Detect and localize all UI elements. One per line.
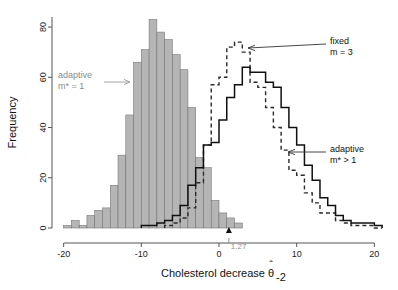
y-axis-tick-label: 60 xyxy=(38,72,48,82)
histogram-bar xyxy=(87,215,95,228)
annotation-label-line1: fixed xyxy=(330,36,349,46)
y-axis-tick-label: 40 xyxy=(38,123,48,133)
histogram-bar xyxy=(95,210,103,228)
histogram-bar xyxy=(180,70,188,228)
histogram-bar xyxy=(110,185,118,228)
histogram-bar xyxy=(71,220,79,228)
histogram-bar xyxy=(157,32,165,228)
annotation-label-line2: m* > 1 xyxy=(330,155,356,165)
y-axis-tick-label: 20 xyxy=(38,173,48,183)
x-axis-tick-label: 0 xyxy=(216,249,221,259)
histogram-bar xyxy=(172,55,180,228)
y-axis-tick-label: 80 xyxy=(38,22,48,32)
svg-text:θ: θ xyxy=(268,267,274,279)
histogram-bar xyxy=(219,213,227,228)
annotation-leader-line xyxy=(248,44,326,48)
histogram-bar xyxy=(149,20,157,228)
histogram-plot: 020406080Frequency-20-10010201.27Cholest… xyxy=(0,0,398,290)
histogram-bar xyxy=(64,225,72,228)
y-axis-title: Frequency xyxy=(6,96,18,148)
annotation-fixed-m-eq-3: fixedm = 3 xyxy=(248,36,353,57)
annotation-label-line1: adaptive xyxy=(330,144,364,154)
histogram-bar xyxy=(126,115,134,228)
x-axis-tick-label: -20 xyxy=(57,249,70,259)
histogram-bar xyxy=(141,50,149,228)
x-axis-tick-label: 10 xyxy=(292,249,302,259)
x-axis-tick-label: 20 xyxy=(369,249,379,259)
svg-text:-2: -2 xyxy=(276,271,286,283)
histogram-bar xyxy=(227,218,235,228)
histogram-bar xyxy=(235,223,243,228)
y-axis-tick-label: 0 xyxy=(38,225,48,230)
x-axis-tick-label: -10 xyxy=(135,249,148,259)
histogram-bar xyxy=(134,62,142,228)
histogram-bar xyxy=(203,168,211,228)
annotation-adaptive-m-gt-1: adaptivem* > 1 xyxy=(288,144,364,165)
histogram-bar xyxy=(79,225,87,228)
histogram-bar xyxy=(165,40,173,228)
histogram-bar xyxy=(211,200,219,228)
figure-container: 020406080Frequency-20-10010201.27Cholest… xyxy=(0,0,398,290)
x-axis-title: Cholesterol decreaseˆθ-2 xyxy=(161,259,286,283)
histogram-bar xyxy=(188,107,196,228)
histogram-bars-layer xyxy=(64,20,243,228)
histogram-bar xyxy=(102,208,110,228)
special-tick-label: 1.27 xyxy=(231,242,247,251)
annotation-adaptive-m-eq-1: adaptivem* = 1 xyxy=(58,70,130,91)
annotation-label-line2: m = 3 xyxy=(330,47,353,57)
svg-text:Cholesterol decrease: Cholesterol decrease xyxy=(161,267,265,279)
histogram-bar xyxy=(118,155,126,228)
annotation-label-line1: adaptive xyxy=(58,70,92,80)
annotation-label-line2: m* = 1 xyxy=(58,81,84,91)
